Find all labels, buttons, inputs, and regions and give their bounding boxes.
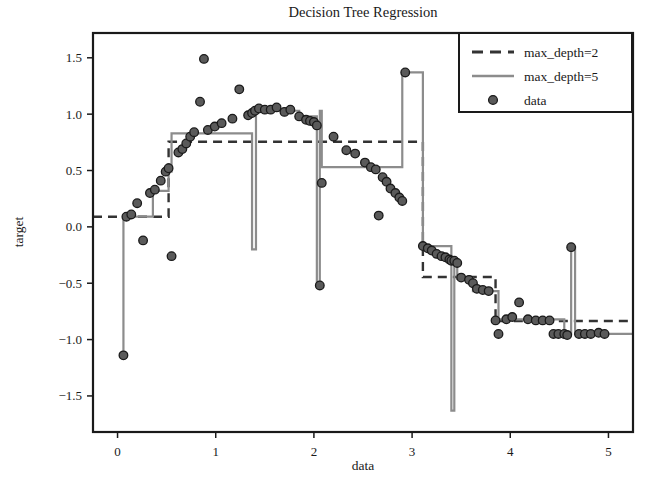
y-tick-label: 1.0 (66, 107, 82, 122)
legend-label: data (524, 93, 547, 108)
y-tick-label: 0.0 (66, 219, 82, 234)
y-tick-label: −1.5 (58, 388, 82, 403)
x-tick-label: 2 (311, 444, 318, 459)
chart-figure: Decision Tree Regression 012345 −1.5−1.0… (0, 0, 653, 500)
data-point (190, 128, 199, 137)
data-point (133, 199, 142, 208)
data-point (398, 197, 407, 206)
x-tick-label: 3 (409, 444, 416, 459)
data-point (371, 165, 380, 174)
decision-tree-regression-chart: Decision Tree Regression 012345 −1.5−1.0… (0, 0, 653, 500)
data-point (491, 316, 500, 325)
data-point (235, 85, 244, 94)
data-point (329, 132, 338, 141)
data-point (586, 330, 595, 339)
data-point (316, 281, 325, 290)
data-point (313, 121, 322, 130)
y-tick-label: −0.5 (58, 276, 82, 291)
data-point (494, 330, 503, 339)
data-point (200, 55, 209, 64)
y-tick-label: 1.5 (66, 50, 82, 65)
x-tick-label: 0 (114, 444, 121, 459)
x-axis-label: data (352, 458, 375, 473)
data-point (351, 149, 360, 158)
y-axis-label: target (11, 217, 26, 248)
y-tick-label: 0.5 (66, 163, 82, 178)
x-tick-label: 4 (507, 444, 514, 459)
data-point (317, 179, 326, 188)
data-point (286, 105, 295, 114)
data-point (119, 351, 128, 360)
legend-label: max_depth=5 (524, 69, 599, 84)
data-point (567, 243, 576, 252)
data-point (167, 252, 176, 261)
data-point (151, 185, 160, 194)
data-point (563, 331, 572, 340)
chart-title: Decision Tree Regression (288, 4, 438, 20)
legend-label: max_depth=2 (524, 45, 598, 60)
data-point (228, 114, 237, 123)
data-point (342, 146, 351, 155)
data-point (156, 176, 165, 185)
y-tick-label: −1.0 (58, 332, 82, 347)
data-point (217, 119, 226, 128)
data-point (515, 298, 524, 307)
x-tick-label: 5 (605, 444, 612, 459)
data-point (374, 211, 383, 220)
data-point (272, 103, 281, 112)
data-point (401, 68, 410, 77)
data-point (127, 210, 136, 219)
data-point (164, 164, 173, 173)
data-point (196, 97, 205, 106)
legend-marker-icon (489, 96, 498, 105)
chart-legend[interactable]: max_depth=2max_depth=5data (459, 33, 632, 112)
data-point (524, 315, 533, 324)
data-point (508, 313, 517, 322)
data-point (139, 236, 148, 245)
data-point (484, 287, 493, 296)
x-tick-label: 1 (212, 444, 219, 459)
data-point (545, 316, 554, 325)
data-point (453, 259, 462, 268)
data-point (600, 330, 609, 339)
